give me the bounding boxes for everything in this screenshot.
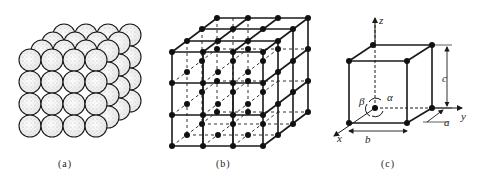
label-y: y — [460, 110, 466, 122]
x-axis — [334, 108, 375, 136]
caption-a: (a) — [58, 158, 72, 169]
angle-arc-gamma — [372, 111, 383, 117]
caption-b: (b) — [216, 158, 231, 169]
unit-cell-edges — [349, 45, 432, 123]
label-beta: β — [358, 95, 365, 107]
dimension-a — [427, 110, 443, 122]
label-c: c — [442, 72, 447, 84]
label-alpha: α — [387, 91, 393, 103]
panel-a-sphere-packing: (a) — [0, 0, 160, 183]
caption-c: (c) — [381, 158, 395, 169]
label-z: z — [378, 14, 384, 26]
lattice-hidden-lines — [172, 18, 308, 146]
sphere-packing-drawing — [0, 0, 160, 183]
lattice-visible-lines — [172, 18, 308, 146]
label-x: x — [336, 132, 342, 144]
label-a: a — [444, 116, 450, 128]
lattice-inner-lines — [203, 52, 233, 146]
angle-arc-beta — [365, 104, 370, 116]
sphere-layer-front — [19, 49, 107, 137]
unit-cell-points — [346, 42, 435, 126]
label-b: b — [365, 133, 371, 145]
lattice-points — [169, 15, 311, 149]
angle-arc-alpha — [369, 98, 381, 102]
